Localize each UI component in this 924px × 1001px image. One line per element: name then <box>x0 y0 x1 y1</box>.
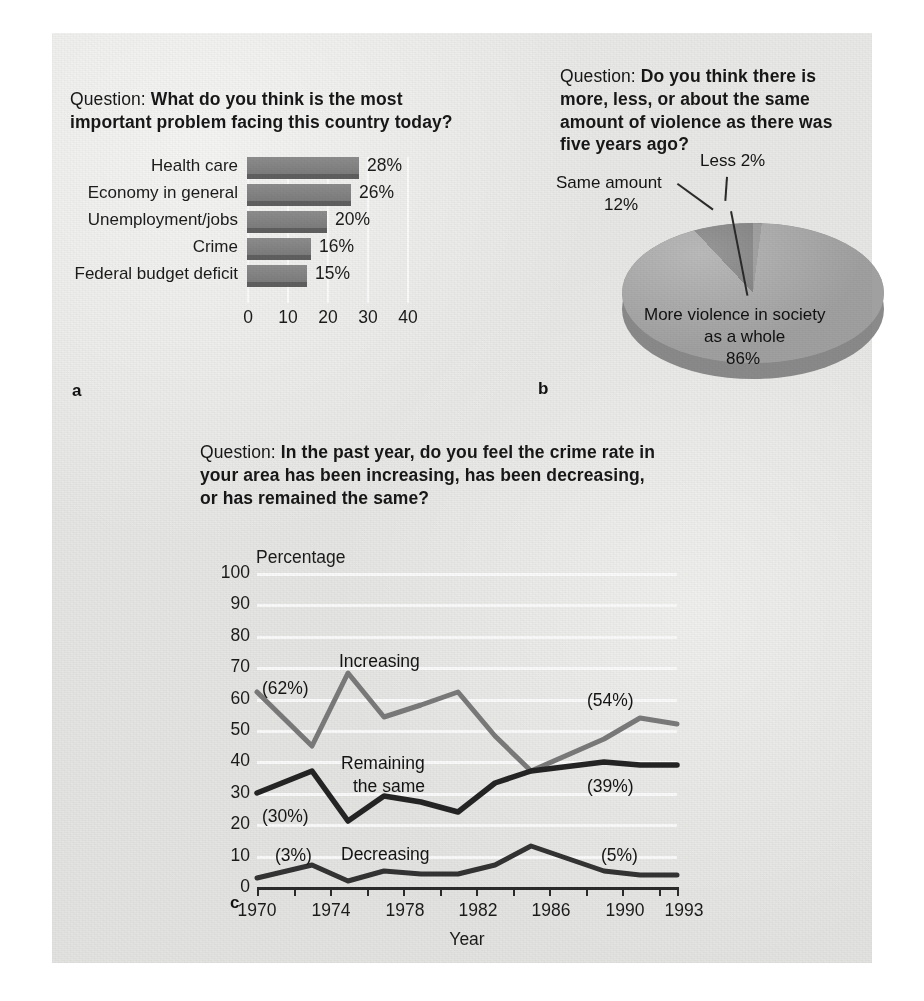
line-label-decreasing: Decreasing <box>341 844 430 865</box>
panel-c-line-chart: Question: In the past year, do you feel … <box>52 423 872 963</box>
pie-inline-label-l3: 86% <box>726 349 760 369</box>
line-note-end-remaining: (39%) <box>587 776 634 797</box>
panel-letter-a: a <box>72 381 81 401</box>
bar-xtick-label: 20 <box>318 307 337 328</box>
bar-fill <box>247 157 359 174</box>
line-ytick-label-40: 40 <box>231 750 250 771</box>
line-plot-area: Percentage 100 90 80 <box>257 573 677 898</box>
line-label-remaining-l1: Remaining <box>341 753 425 774</box>
line-xtick <box>549 887 551 896</box>
bar-category-label: Federal budget deficit <box>75 264 239 284</box>
bar-category-label: Health care <box>151 156 238 176</box>
line-label-remaining-l2: the same <box>353 776 425 797</box>
pie-callout-same-amount-l1: Same amount <box>556 173 662 193</box>
line-ytick-label-60: 60 <box>231 688 250 709</box>
bar-value-label: 26% <box>359 182 394 203</box>
bar-xtick-label: 30 <box>358 307 377 328</box>
line-xtick <box>677 887 679 896</box>
panel-b-question: Question: Do you think there is more, le… <box>560 65 860 156</box>
panel-a-bar-chart: Question: What do you think is the most … <box>52 33 482 393</box>
panel-a-question: Question: What do you think is the most … <box>70 88 460 134</box>
line-xtick <box>440 887 442 896</box>
panel-a-plot-area: Health care 28% Economy in general 26% U… <box>247 157 447 293</box>
line-ytick-label-80: 80 <box>231 625 250 646</box>
line-ytick-label-70: 70 <box>231 656 250 677</box>
panel-b-pie-chart: Question: Do you think there is more, le… <box>482 33 872 393</box>
line-xtick-label-1974: 1974 <box>312 900 351 921</box>
line-ytick-label-10: 10 <box>231 845 250 866</box>
line-ytick-label-100: 100 <box>221 562 250 583</box>
line-note-start-increasing: (62%) <box>262 678 309 699</box>
line-xtick-label-1990: 1990 <box>606 900 645 921</box>
line-ytick-label-30: 30 <box>231 782 250 803</box>
line-ytick-label-50: 50 <box>231 719 250 740</box>
line-xtick <box>330 887 332 896</box>
panel-letter-c: c <box>230 893 239 913</box>
line-note-start-decreasing: (3%) <box>275 845 312 866</box>
bar-value-label: 16% <box>319 236 354 257</box>
bar-category-label: Economy in general <box>88 183 238 203</box>
line-xtick-label-1993: 1993 <box>665 900 704 921</box>
line-x-axis <box>257 887 679 890</box>
bar-value-label: 20% <box>335 209 370 230</box>
pie-inline-label-l1: More violence in society <box>644 305 825 325</box>
bar-fill <box>247 265 307 282</box>
line-xtick <box>659 887 661 896</box>
panel-letter-b: b <box>538 379 548 399</box>
panel-c-question: Question: In the past year, do you feel … <box>200 441 660 509</box>
bar-category-label: Unemployment/jobs <box>88 210 238 230</box>
line-ytick-label-0: 0 <box>240 876 250 897</box>
bar-fill <box>247 238 311 255</box>
bar-fill <box>247 211 327 228</box>
line-xtick-label-1978: 1978 <box>386 900 425 921</box>
figure-page: Question: What do you think is the most … <box>0 0 924 1001</box>
line-x-axis-title: Year <box>449 929 484 950</box>
line-note-end-increasing: (54%) <box>587 690 634 711</box>
bar-value-label: 15% <box>315 263 350 284</box>
line-xtick <box>513 887 515 896</box>
line-xtick <box>257 887 259 896</box>
bar-gridline-30 <box>367 157 369 303</box>
pie-leader-line-same-amount <box>677 183 714 210</box>
panel-b-question-label: Question: <box>560 66 636 86</box>
line-xtick <box>403 887 405 896</box>
line-xtick <box>586 887 588 896</box>
line-plot-canvas: 100 90 80 70 60 50 40 30 20 10 0 <box>257 573 677 887</box>
bar-xtick-label: 40 <box>398 307 417 328</box>
line-xtick <box>294 887 296 896</box>
line-ytick-label-20: 20 <box>231 813 250 834</box>
panel-c-question-label: Question: <box>200 442 276 462</box>
line-xtick-label-1982: 1982 <box>459 900 498 921</box>
bar-fill <box>247 184 351 201</box>
pie-inline-label-l2: as a whole <box>704 327 785 347</box>
line-xtick-label-1986: 1986 <box>532 900 571 921</box>
line-xtick <box>367 887 369 896</box>
bar-gridline-40 <box>407 157 409 303</box>
line-y-axis-title: Percentage <box>256 547 346 568</box>
bar-xtick-label: 10 <box>278 307 297 328</box>
line-note-end-decreasing: (5%) <box>601 845 638 866</box>
line-xtick <box>476 887 478 896</box>
bar-category-label: Crime <box>193 237 238 257</box>
bar-value-label: 28% <box>367 155 402 176</box>
bar-xtick-label: 0 <box>243 307 253 328</box>
line-xtick <box>622 887 624 896</box>
pie-callout-same-amount-l2: 12% <box>604 195 638 215</box>
panel-a-question-label: Question: <box>70 89 146 109</box>
line-ytick-label-90: 90 <box>231 593 250 614</box>
line-xtick-label-1970: 1970 <box>238 900 277 921</box>
line-series-group <box>257 573 677 887</box>
line-note-start-remaining: (30%) <box>262 806 309 827</box>
line-series-increasing <box>257 673 677 771</box>
line-label-increasing: Increasing <box>339 651 420 672</box>
figure-plate: Question: What do you think is the most … <box>52 33 872 963</box>
pie-callout-less: Less 2% <box>700 151 765 171</box>
pie-leader-line-less-upper <box>724 177 728 201</box>
